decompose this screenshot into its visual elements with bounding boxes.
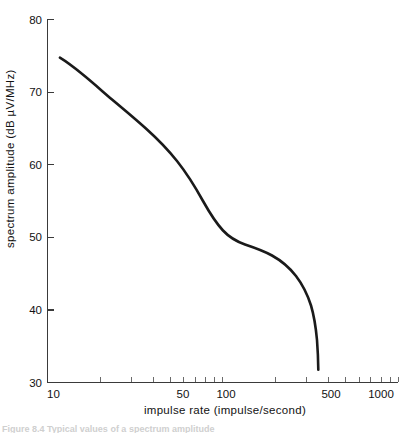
- y-tick-label-40: 40: [29, 304, 42, 316]
- chart-background: [0, 0, 408, 433]
- figure-caption: Figure 8.4 Typical values of a spectrum …: [2, 425, 214, 433]
- figure-caption-strip: Figure 8.4 Typical values of a spectrum …: [0, 425, 408, 433]
- figure-container: 30 40 50 60 70 80: [0, 0, 408, 433]
- y-tick-label-60: 60: [29, 159, 42, 171]
- y-tick-label-30: 30: [29, 377, 42, 389]
- x-tick-label-500: 500: [321, 388, 340, 400]
- y-tick-label-50: 50: [29, 231, 42, 243]
- x-tick-label-1000: 1000: [368, 388, 394, 400]
- y-tick-label-70: 70: [29, 86, 42, 98]
- x-tick-label-50: 50: [177, 388, 190, 400]
- x-tick-label-100: 100: [216, 388, 235, 400]
- x-axis-title: impulse rate (impulse/second): [144, 404, 306, 416]
- x-tick-label-10: 10: [47, 388, 60, 400]
- y-axis-title: spectrum amplitude (dB µV/MHz): [4, 69, 16, 248]
- spectrum-amplitude-chart: 30 40 50 60 70 80: [0, 0, 408, 433]
- y-tick-label-80: 80: [29, 14, 42, 26]
